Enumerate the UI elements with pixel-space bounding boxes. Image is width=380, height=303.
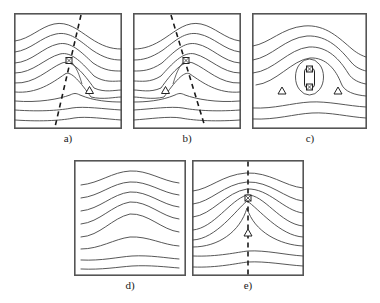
- panel-e: [192, 160, 304, 276]
- panel-a-peak-square-marker: [66, 58, 72, 64]
- panel-c-label: c): [290, 131, 330, 145]
- panel-b-peak-square-marker: [183, 58, 189, 64]
- panel-c-canvas: [252, 13, 367, 129]
- panel-e-label: e): [228, 278, 268, 292]
- panel-a: [14, 13, 122, 129]
- panel-c-capsule-top-square-marker: [307, 66, 313, 72]
- panel-b: [133, 13, 241, 129]
- panel-a-canvas: [14, 13, 122, 129]
- panel-d-label: d): [110, 278, 150, 292]
- panel-d-canvas: [74, 160, 186, 276]
- panel-d: [74, 160, 186, 276]
- panel-a-label: a): [48, 131, 88, 145]
- panel-b-label: b): [167, 131, 207, 145]
- panel-c-capsule-bottom-square-marker: [307, 84, 313, 90]
- panel-e-peak-square-marker: [245, 195, 251, 201]
- contour-figure: a) b): [0, 0, 380, 303]
- panel-e-canvas: [192, 160, 304, 276]
- panel-c: [252, 13, 367, 129]
- panel-b-canvas: [133, 13, 241, 129]
